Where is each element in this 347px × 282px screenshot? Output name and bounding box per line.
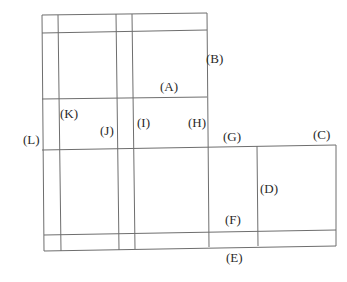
grid-line bbox=[44, 246, 336, 251]
grid-line bbox=[42, 30, 207, 33]
floor-plan-diagram: (A)(B)(C)(D)(E)(F)(G)(H)(I)(J)(K)(L) bbox=[0, 0, 347, 282]
grid-line bbox=[132, 14, 135, 249]
grid-line bbox=[44, 230, 336, 235]
region-label-b: (B) bbox=[206, 52, 223, 65]
region-label-a: (A) bbox=[160, 80, 178, 93]
region-label-d: (D) bbox=[260, 182, 278, 195]
grid-line bbox=[58, 15, 61, 251]
grid-line bbox=[42, 13, 207, 15]
region-label-c: (C) bbox=[313, 128, 330, 141]
region-label-k: (K) bbox=[60, 107, 78, 120]
grid-lines bbox=[0, 0, 347, 282]
grid-line bbox=[207, 13, 209, 247]
region-label-e: (E) bbox=[226, 251, 243, 264]
grid-line bbox=[42, 145, 336, 150]
grid-line bbox=[42, 97, 207, 99]
region-label-g: (G) bbox=[223, 130, 241, 143]
region-label-h: (H) bbox=[188, 116, 206, 129]
region-label-l: (L) bbox=[23, 133, 40, 146]
region-label-j: (J) bbox=[100, 124, 114, 137]
region-label-f: (F) bbox=[225, 213, 241, 226]
grid-line bbox=[42, 15, 44, 251]
region-label-i: (I) bbox=[137, 116, 150, 129]
grid-line bbox=[116, 14, 119, 250]
